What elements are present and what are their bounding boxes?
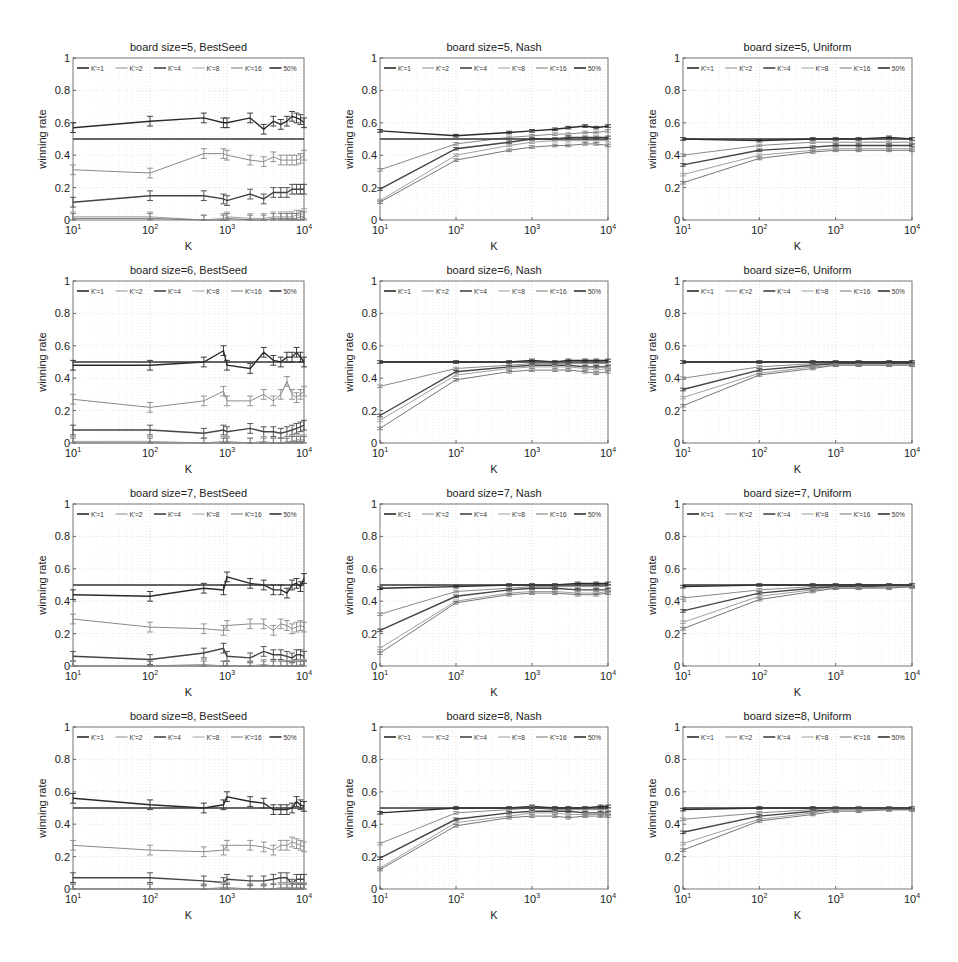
series-k4 [680,362,915,391]
legend-label: K'=2 [130,511,143,518]
y-tick-label: 0.4 [55,372,70,384]
series-k4 [70,184,307,207]
y-tick-label: 1 [674,275,680,287]
y-tick-label: 0.8 [55,307,70,319]
legend-label: K'=1 [701,65,714,72]
legend-label: K'=8 [512,511,525,518]
y-tick-label: 0.6 [55,563,70,575]
legend-label: K'=4 [777,288,790,295]
series-k4 [680,808,915,833]
y-axis-label: winning rate [646,332,658,392]
y-tick-label: 0.8 [665,84,680,96]
y-tick-label: 0.4 [665,372,680,384]
x-tick-label: 102 [751,223,767,236]
legend-label: 50% [284,511,297,518]
legend-label: 50% [892,288,905,295]
x-tick-label: 103 [828,669,844,682]
y-tick-label: 0.4 [665,149,680,161]
legend-label: K'=1 [91,65,104,72]
legend-label: K'=4 [168,511,181,518]
chart-panel: board size=8, BestSeed00.20.40.60.811011… [36,710,312,921]
series-k8 [680,147,915,176]
series-line [73,648,304,659]
chart-title: board size=5, Nash [446,41,541,53]
legend-label: K'=16 [854,65,871,72]
legend-label: K'=8 [512,65,525,72]
y-axis-label: winning rate [36,109,48,169]
x-tick-label: 104 [904,669,920,682]
legend-label: K'=2 [739,734,752,741]
chart-panel: board size=5, Uniform00.20.40.60.8110110… [646,41,920,252]
series-k16 [680,364,915,407]
x-tick-label: 103 [219,446,235,459]
legend-label: K'=4 [777,734,790,741]
y-tick-label: 0.4 [55,595,70,607]
legend-label: K'=4 [474,65,487,72]
y-tick-label: 0.2 [665,851,680,863]
y-tick-label: 0.6 [55,786,70,798]
chart-panel: board size=8, Nash00.20.40.60.8110110210… [343,710,616,921]
legend-label: K'=8 [207,734,220,741]
y-tick-label: 0.6 [55,117,70,129]
x-tick-label: 103 [524,892,540,905]
legend-label: K'=1 [398,734,411,741]
x-tick-label: 101 [65,446,81,459]
y-tick-label: 0.8 [362,307,377,319]
chart-title: board size=7, Nash [446,487,541,499]
y-tick-label: 0.8 [55,84,70,96]
legend-label: K'=2 [130,65,143,72]
y-tick-label: 0.2 [55,182,70,194]
x-axis-label: K [185,909,193,921]
x-tick-label: 104 [296,892,312,905]
series-k8 [680,585,915,623]
x-tick-label: 103 [828,892,844,905]
y-tick-label: 0.4 [665,818,680,830]
y-tick-label: 0.6 [362,563,377,575]
x-tick-label: 101 [372,446,388,459]
y-tick-label: 1 [674,498,680,510]
x-tick-label: 101 [675,669,691,682]
legend-label: K'=1 [398,288,411,295]
legend-label: K'=16 [245,288,262,295]
chart-panel: board size=7, Nash00.20.40.60.8110110210… [343,487,616,698]
chart-panel: board size=6, Nash00.20.40.60.8110110210… [343,264,616,475]
series-k16 [70,884,307,889]
y-axis-label: winning rate [36,778,48,838]
legend-label: 50% [588,65,601,72]
y-tick-label: 1 [674,721,680,733]
series-k16 [377,815,611,871]
legend-label: 50% [284,734,297,741]
series-line [380,592,608,649]
x-tick-label: 101 [372,669,388,682]
x-tick-label: 103 [219,223,235,236]
legend-label: K'=16 [550,288,567,295]
chart-title: board size=6, BestSeed [130,264,247,276]
legend-label: K'=1 [91,734,104,741]
chart-panel: board size=5, Nash00.20.40.60.8110110210… [343,41,616,252]
legend-label: 50% [588,288,601,295]
legend-label: K'=8 [816,511,829,518]
y-tick-label: 0.6 [362,340,377,352]
series-line [73,351,304,369]
x-tick-label: 104 [904,892,920,905]
x-tick-label: 102 [448,446,464,459]
y-tick-label: 0.2 [55,628,70,640]
legend-label: K'=4 [168,288,181,295]
x-tick-label: 102 [448,892,464,905]
series-k2 [70,149,307,178]
legend-label: K'=1 [91,288,104,295]
y-tick-label: 0.8 [665,530,680,542]
x-tick-label: 102 [142,892,158,905]
legend-label: K'=16 [854,734,871,741]
chart-title: board size=6, Nash [446,264,541,276]
x-axis-label: K [794,240,802,252]
series-k8 [70,660,307,666]
series-k1 [70,572,307,601]
legend-label: 50% [284,65,297,72]
legend-label: K'=8 [512,288,525,295]
x-tick-label: 102 [751,446,767,459]
series-line [73,577,304,596]
x-tick-label: 104 [296,223,312,236]
y-axis-label: winning rate [343,778,355,838]
x-tick-label: 104 [904,223,920,236]
